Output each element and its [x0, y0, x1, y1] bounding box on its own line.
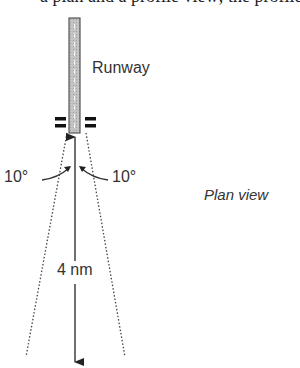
right-angle-label: 10°: [112, 168, 136, 186]
runway-label: Runway: [92, 59, 150, 77]
view-label: Plan view: [204, 186, 268, 203]
distance-label: 4 nm: [56, 261, 94, 279]
right-splay-line: [86, 133, 125, 357]
threshold-bars-right: [85, 117, 96, 128]
left-angle-label: 10°: [4, 168, 28, 186]
left-angle-leader: [42, 168, 69, 180]
left-splay-line: [26, 133, 67, 357]
approach-diagram: [0, 0, 300, 368]
runway: [69, 18, 80, 133]
threshold-bars-left: [55, 117, 66, 128]
